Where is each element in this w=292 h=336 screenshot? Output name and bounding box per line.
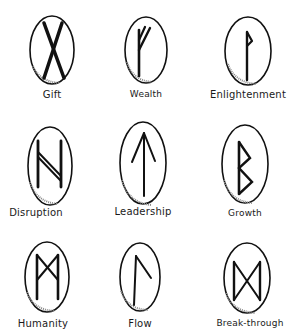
rune-chart: Gift Wealth Enlightenment Dis xyxy=(0,0,292,336)
rune-label-break-through: Break-through xyxy=(216,318,283,328)
dagaz-rune-icon xyxy=(0,0,292,336)
